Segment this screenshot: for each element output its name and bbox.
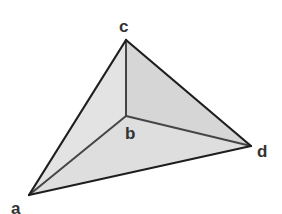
vertex-label-d: d [257, 142, 267, 161]
vertex-label-a: a [11, 199, 21, 214]
tetrahedron-svg: c b d a [0, 0, 282, 214]
vertex-label-c: c [119, 17, 128, 36]
vertex-label-b: b [125, 124, 135, 143]
tetrahedron-diagram: c b d a [0, 0, 282, 214]
